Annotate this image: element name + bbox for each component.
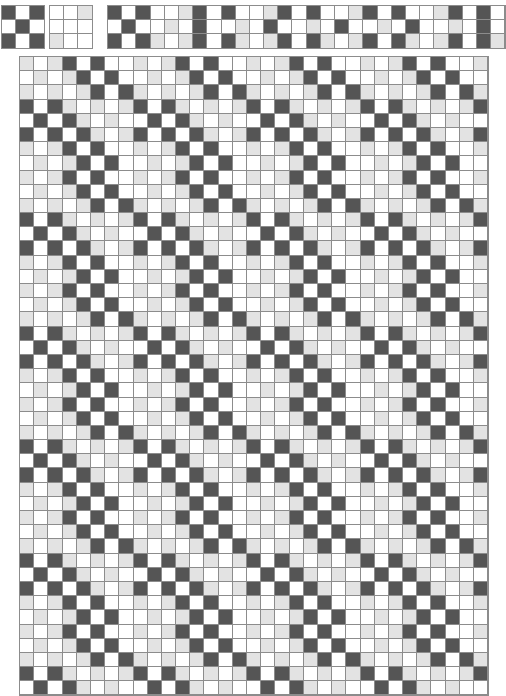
- pattern-cell: [318, 142, 331, 155]
- pattern-cell: [406, 34, 419, 47]
- pattern-cell: [176, 539, 189, 552]
- pattern-cell: [219, 100, 232, 113]
- pattern-cell: [290, 398, 303, 411]
- pattern-cell: [233, 270, 246, 283]
- pattern-cell: [48, 156, 61, 169]
- pattern-cell: [346, 71, 359, 84]
- pattern-cell: [91, 554, 104, 567]
- pattern-cell: [148, 440, 161, 453]
- pattern-cell: [20, 327, 33, 340]
- pattern-cell: [119, 355, 132, 368]
- pattern-cell: [34, 298, 47, 311]
- pattern-cell: [261, 85, 274, 98]
- pattern-cell: [233, 142, 246, 155]
- pattern-cell: [275, 85, 288, 98]
- pattern-cell: [148, 171, 161, 184]
- pattern-cell: [446, 568, 459, 581]
- pattern-cell: [261, 426, 274, 439]
- pattern-cell: [460, 681, 473, 694]
- pattern-cell: [261, 114, 274, 127]
- pattern-cell: [247, 383, 260, 396]
- pattern-cell: [474, 355, 487, 368]
- pattern-cell: [190, 85, 203, 98]
- pattern-cell: [219, 270, 232, 283]
- pattern-cell: [261, 653, 274, 666]
- pattern-cell: [375, 625, 388, 638]
- pattern-cell: [91, 369, 104, 382]
- pattern-cell: [403, 100, 416, 113]
- pattern-cell: [332, 341, 345, 354]
- pattern-cell: [389, 412, 402, 425]
- pattern-cell: [375, 57, 388, 70]
- pattern-cell: [431, 653, 444, 666]
- pattern-cell: [446, 213, 459, 226]
- pattern-cell: [346, 199, 359, 212]
- pattern-cell: [332, 511, 345, 524]
- pattern-cell: [48, 327, 61, 340]
- pattern-cell: [403, 142, 416, 155]
- pattern-cell: [190, 341, 203, 354]
- pattern-cell: [275, 412, 288, 425]
- pattern-cell: [460, 185, 473, 198]
- pattern-cell: [162, 525, 175, 538]
- pattern-cell: [346, 667, 359, 680]
- pattern-cell: [375, 100, 388, 113]
- pattern-cell: [63, 596, 76, 609]
- pattern-cell: [119, 525, 132, 538]
- pattern-cell: [63, 383, 76, 396]
- pattern-cell: [420, 34, 433, 47]
- pattern-cell: [346, 440, 359, 453]
- pattern-cell: [233, 681, 246, 694]
- pattern-cell: [105, 142, 118, 155]
- pattern-cell: [134, 171, 147, 184]
- pattern-cell: [261, 398, 274, 411]
- pattern-cell: [375, 270, 388, 283]
- pattern-cell: [48, 653, 61, 666]
- pattern-cell: [403, 57, 416, 70]
- pattern-cell: [148, 270, 161, 283]
- pattern-cell: [190, 454, 203, 467]
- pattern-cell: [460, 426, 473, 439]
- pattern-cell: [431, 341, 444, 354]
- pattern-cell: [318, 625, 331, 638]
- pattern-cell: [431, 398, 444, 411]
- pattern-cell: [233, 241, 246, 254]
- pattern-cell: [34, 610, 47, 623]
- pattern-cell: [247, 199, 260, 212]
- pattern-cell: [275, 341, 288, 354]
- pattern-cell: [417, 213, 430, 226]
- pattern-cell: [460, 653, 473, 666]
- pattern-cell: [219, 440, 232, 453]
- pattern-cell: [346, 142, 359, 155]
- pattern-cell: [403, 284, 416, 297]
- pattern-cell: [474, 199, 487, 212]
- pattern-cell: [176, 241, 189, 254]
- pattern-cell: [332, 554, 345, 567]
- pattern-cell: [304, 298, 317, 311]
- pattern-cell: [304, 227, 317, 240]
- pattern-cell: [48, 369, 61, 382]
- pattern-cell: [134, 454, 147, 467]
- pattern-cell: [77, 85, 90, 98]
- pattern-cell: [460, 156, 473, 169]
- pattern-cell: [389, 511, 402, 524]
- pattern-cell: [179, 6, 192, 19]
- pattern-cell: [20, 114, 33, 127]
- pattern-cell: [491, 6, 504, 19]
- pattern-cell: [204, 539, 217, 552]
- pattern-cell: [176, 227, 189, 240]
- pattern-cell: [346, 582, 359, 595]
- pattern-cell: [34, 142, 47, 155]
- pattern-cell: [233, 383, 246, 396]
- pattern-cell: [63, 100, 76, 113]
- pattern-cell: [162, 85, 175, 98]
- pattern-cell: [190, 497, 203, 510]
- pattern-cell: [219, 142, 232, 155]
- pattern-cell: [91, 199, 104, 212]
- pattern-cell: [389, 142, 402, 155]
- pattern-cell: [176, 213, 189, 226]
- pattern-cell: [431, 256, 444, 269]
- pattern-cell: [292, 20, 305, 33]
- pattern-cell: [204, 582, 217, 595]
- pattern-cell: [261, 454, 274, 467]
